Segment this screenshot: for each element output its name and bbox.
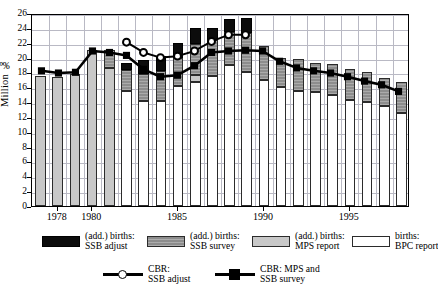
marker-filled-square — [242, 47, 249, 54]
marker-filled-square — [72, 69, 79, 76]
legend-item: (add.) births:SSB survey — [147, 231, 240, 252]
legend-label: CBR: MPS andSSB survey — [260, 264, 320, 285]
x-axis-tick-mark — [91, 207, 92, 211]
y-axis-tick-label: 0 — [0, 202, 27, 212]
y-axis-tick-mark — [27, 207, 31, 208]
y-axis-tick-label: 20 — [0, 54, 27, 64]
line-path-cbr-mps-ssb-survey — [41, 50, 398, 91]
filled-square-marker-swatch — [215, 268, 255, 280]
y-axis-tick-label: 8 — [0, 143, 27, 153]
marker-filled-square — [259, 47, 266, 54]
marker-filled-square — [310, 67, 317, 74]
marker-filled-square — [327, 69, 334, 76]
filled-square-marker — [229, 269, 240, 280]
marker-filled-square — [157, 73, 164, 80]
legend-label: CBR:SSB adjust — [148, 264, 190, 285]
marker-filled-square — [225, 47, 232, 54]
legend-label-line2: BPC report — [395, 241, 438, 251]
marker-filled-square — [276, 58, 283, 65]
marker-open-circle — [242, 31, 249, 38]
marker-filled-square — [106, 49, 113, 56]
legend-label-line2: SSB adjust — [148, 274, 190, 284]
open-circle-marker — [118, 270, 127, 279]
x-axis-tick-mark — [57, 207, 58, 211]
ssb-survey-swatch — [147, 236, 185, 247]
legend-label-line2: SSB adjust — [85, 241, 135, 251]
y-axis-tick-label: 6 — [0, 157, 27, 167]
legend-label: (add.) births:MPS report — [295, 231, 345, 252]
legend-item: births:BPC report — [352, 231, 438, 252]
marker-filled-square — [361, 78, 368, 85]
bpc-report-swatch — [352, 236, 390, 247]
x-axis-tick-mark — [263, 207, 264, 211]
x-axis-tick-label: 1985 — [157, 211, 197, 222]
marker-filled-square — [174, 72, 181, 79]
marker-filled-square — [395, 88, 402, 95]
marker-filled-square — [38, 67, 45, 74]
x-axis-tick-label: 1995 — [329, 211, 369, 222]
marker-filled-square — [191, 62, 198, 69]
y-axis-tick-label: 14 — [0, 98, 27, 108]
legend-item: (add.) births:MPS report — [252, 231, 345, 252]
marker-open-circle — [225, 31, 232, 38]
marker-open-circle — [157, 54, 164, 61]
x-axis-tick-label: 1980 — [71, 211, 111, 222]
marker-open-circle — [208, 38, 215, 45]
x-axis-tick-mark — [349, 207, 350, 211]
legend-item: CBR:SSB adjust — [103, 264, 190, 285]
y-axis-tick-label: 2 — [0, 187, 27, 197]
legend-item: CBR: MPS andSSB survey — [215, 264, 320, 285]
x-axis-tick-mark — [177, 207, 178, 211]
legend-row-bars: (add.) births:SSB adjust(add.) births:SS… — [0, 231, 416, 257]
legend-label: births:BPC report — [395, 231, 438, 252]
marker-open-circle — [123, 39, 130, 46]
y-axis-tick-label: 26 — [0, 9, 27, 19]
legend-label-line2: SSB survey — [190, 241, 240, 251]
y-axis-tick-label: 24 — [0, 24, 27, 34]
marker-filled-square — [378, 81, 385, 88]
legend-label: (add.) births:SSB survey — [190, 231, 240, 252]
plot-area — [31, 14, 409, 207]
y-axis-tick-label: 4 — [0, 172, 27, 182]
legend-label-line2: MPS report — [295, 241, 345, 251]
marker-filled-square — [123, 52, 130, 59]
marker-filled-square — [293, 64, 300, 71]
y-axis-tick-label: 12 — [0, 113, 27, 123]
marker-filled-square — [208, 49, 215, 56]
mps-report-swatch — [252, 236, 290, 247]
marker-filled-square — [344, 73, 351, 80]
open-circle-marker-swatch — [103, 268, 143, 280]
y-axis-tick-label: 22 — [0, 39, 27, 49]
marker-filled-square — [55, 69, 62, 76]
marker-filled-square — [89, 47, 96, 54]
marker-open-circle — [140, 49, 147, 56]
legend-label: (add.) births:SSB adjust — [85, 231, 135, 252]
marker-open-circle — [174, 53, 181, 60]
marker-filled-square — [140, 66, 147, 73]
legend-item: (add.) births:SSB adjust — [42, 231, 135, 252]
marker-open-circle — [191, 48, 198, 55]
y-axis-tick-label: 16 — [0, 83, 27, 93]
x-axis-tick-label: 1990 — [243, 211, 283, 222]
legend-label-line2: SSB survey — [260, 274, 320, 284]
line-series-overlay — [32, 15, 408, 206]
legend-row-lines: CBR:SSB adjustCBR: MPS andSSB survey — [0, 264, 416, 290]
y-axis-tick-label: 10 — [0, 128, 27, 138]
black-swatch — [42, 236, 80, 247]
y-axis-tick-label: 18 — [0, 68, 27, 78]
